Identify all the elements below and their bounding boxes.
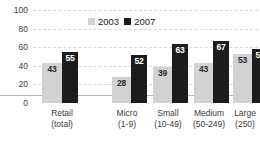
x-axis-label-medium-line2: (50-249) [188,119,230,130]
bar-2007-large[interactable]: 58 [252,49,260,103]
y-axis-tick-20: 20 [2,80,28,89]
x-axis-label-micro-line1: Micro [117,108,138,118]
bar-2003-retail[interactable]: 43 [42,63,62,103]
x-axis-label-micro-line2: (1-9) [105,119,149,130]
x-axis-label-large-line2: (250) [228,119,260,130]
legend-item-2003[interactable]: 2003 [88,16,119,27]
bar-2003-large[interactable]: 53 [233,54,252,103]
bar-value-2007-large: 58 [252,51,260,60]
bar-value-2007-micro: 52 [131,57,147,66]
bar-chart: 100 80 60 40 20 0 43 55 28 52 39 63 [0,0,260,152]
bar-2003-micro[interactable]: 28 [112,77,131,103]
x-axis-label-large-line1: Large [234,108,256,118]
x-axis-label-small: Small (10-49) [146,108,190,130]
bar-value-2003-medium: 43 [194,65,213,74]
y-axis-tick-40: 40 [2,62,28,71]
x-axis-label-large: Large (250) [228,108,260,130]
bar-value-2007-small: 63 [172,46,188,55]
bar-value-2007-medium: 67 [213,43,229,52]
bar-2007-retail[interactable]: 55 [62,52,78,103]
bar-value-2003-retail: 43 [42,65,62,74]
bar-value-2003-small: 39 [153,69,172,78]
x-axis-label-medium: Medium (50-249) [188,108,230,130]
bar-value-2007-retail: 55 [62,54,78,63]
chart-legend: 2003 2007 [88,16,155,27]
legend-swatch-icon-2003 [88,18,95,25]
y-axis-tick-80: 80 [2,24,28,33]
bar-2007-small[interactable]: 63 [172,44,188,103]
bar-2003-small[interactable]: 39 [153,67,172,103]
x-axis-label-micro: Micro (1-9) [105,108,149,130]
y-axis-tick-0: 0 [2,99,28,108]
legend-label-2007: 2007 [134,16,155,27]
legend-item-2007[interactable]: 2007 [124,16,155,27]
bar-2007-micro[interactable]: 52 [131,55,147,103]
bar-value-2003-large: 53 [233,56,252,65]
bar-value-2003-micro: 28 [112,79,131,88]
x-axis-label-retail-line1: Retail [51,108,73,118]
x-axis-label-small-line2: (10-49) [146,119,190,130]
x-axis-label-medium-line1: Medium [194,108,224,118]
x-axis-label-retail-line2: (total) [36,119,88,130]
bar-2003-medium[interactable]: 43 [194,63,213,103]
x-axis-label-retail: Retail (total) [36,108,88,130]
y-axis-tick-100: 100 [2,6,28,15]
legend-swatch-icon-2007 [124,18,131,25]
y-axis-tick-60: 60 [2,43,28,52]
legend-label-2003: 2003 [98,16,119,27]
bar-2007-medium[interactable]: 67 [213,41,229,103]
gridline-100 [33,10,258,11]
x-axis-label-small-line1: Small [157,108,178,118]
gridline-80 [33,29,258,30]
